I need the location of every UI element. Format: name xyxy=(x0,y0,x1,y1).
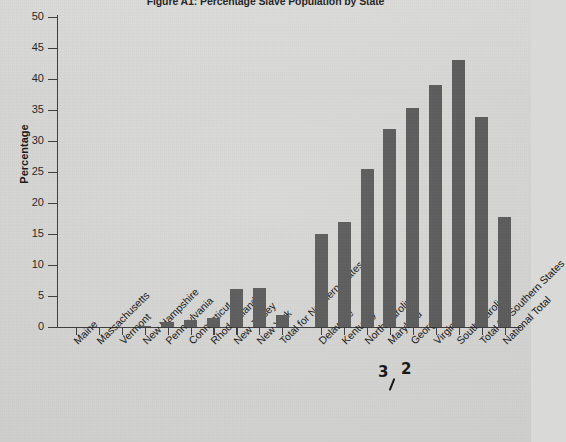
y-axis-tick-label: 5 xyxy=(0,289,44,301)
bar xyxy=(475,117,488,327)
y-axis-tick xyxy=(48,79,57,80)
y-axis-tick-label: 10 xyxy=(0,258,44,270)
bar xyxy=(184,320,197,327)
y-axis-tick-label: 30 xyxy=(0,134,44,146)
y-axis-tick-label: 15 xyxy=(0,227,44,239)
y-axis-tick-label: 40 xyxy=(0,72,44,84)
y-axis-tick xyxy=(48,17,57,18)
bar xyxy=(230,289,243,327)
bar xyxy=(338,222,351,327)
y-axis-tick xyxy=(48,110,57,111)
y-axis-tick-label: 20 xyxy=(0,196,44,208)
bar xyxy=(429,85,442,327)
y-axis-tick xyxy=(48,203,57,204)
y-axis-tick-label: 45 xyxy=(0,41,44,53)
bar xyxy=(138,326,151,327)
y-axis-title: Percentage xyxy=(18,109,30,199)
bar xyxy=(452,60,465,327)
y-axis-line xyxy=(57,15,58,328)
bar xyxy=(406,108,419,327)
y-axis-tick xyxy=(48,48,57,49)
x-axis-tick-label: Maine xyxy=(71,318,100,347)
bar xyxy=(161,322,174,327)
bar xyxy=(315,234,328,327)
bar xyxy=(276,315,289,327)
y-axis-tick xyxy=(48,141,57,142)
pen-digit-3: 3 xyxy=(378,363,388,381)
y-axis-tick-label: 35 xyxy=(0,103,44,115)
pen-stroke-1 xyxy=(389,378,396,391)
bar xyxy=(498,217,511,327)
bar xyxy=(383,129,396,327)
y-axis-tick xyxy=(48,296,57,297)
bar xyxy=(207,318,220,327)
y-axis-tick xyxy=(48,172,57,173)
bar xyxy=(253,288,266,327)
y-axis-tick-label: 0 xyxy=(0,320,44,332)
y-axis-tick xyxy=(48,265,57,266)
y-axis-tick xyxy=(48,327,57,328)
y-axis-tick xyxy=(48,234,57,235)
chart-title: Figure A1: Percentage Slave Population b… xyxy=(0,0,531,7)
y-axis-tick-label: 50 xyxy=(0,10,44,22)
y-axis-tick-label: 25 xyxy=(0,165,44,177)
bar xyxy=(361,169,374,327)
pen-digit-2: 2 xyxy=(401,360,411,378)
